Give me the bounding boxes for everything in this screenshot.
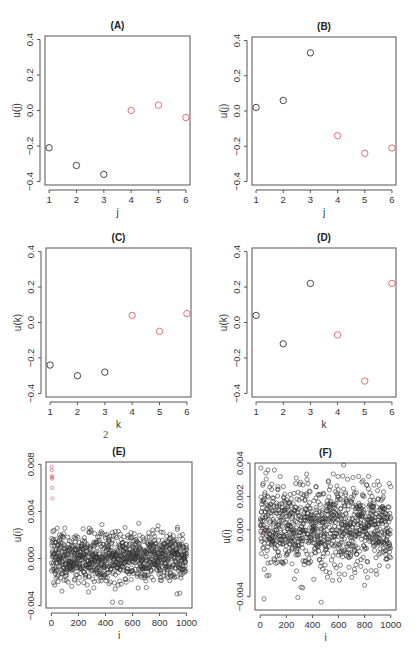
data-point [85, 583, 89, 587]
y-axis-label: u(i) [221, 529, 232, 543]
data-point [325, 575, 329, 579]
x-tick-label: 400 [98, 617, 114, 628]
data-point [331, 472, 335, 476]
x-tick-label: 4 [129, 194, 134, 205]
panel-a: (A)123456j−0.4−0.20.00.20.4u(j) [11, 20, 190, 218]
data-point [290, 562, 294, 566]
x-tick-label: 600 [331, 619, 347, 630]
data-point [288, 492, 292, 496]
y-tick-label: 0.4 [25, 245, 36, 258]
x-axis-label: i [324, 632, 326, 643]
panel-title: (D) [317, 232, 331, 243]
data-point [342, 463, 346, 467]
y-tick-label: −0.2 [25, 349, 36, 368]
data-point [307, 50, 313, 56]
panel-title: (A) [111, 20, 125, 31]
data-point [306, 482, 310, 486]
plot-frame [252, 248, 396, 397]
y-tick-label: 0.000 [25, 547, 36, 571]
x-tick-label: 1000 [176, 617, 197, 628]
data-point [63, 526, 67, 530]
data-point [116, 529, 120, 533]
data-point [388, 555, 392, 559]
data-point [128, 107, 134, 113]
data-point [386, 564, 390, 568]
data-point [345, 477, 349, 481]
data-point [92, 580, 96, 584]
data-point [334, 132, 340, 138]
y-tick-label: 0.000 [234, 518, 245, 542]
series-group-2 [334, 280, 395, 384]
data-point [389, 485, 393, 489]
data-point [47, 362, 53, 368]
data-point [92, 586, 96, 590]
data-point [184, 310, 190, 316]
data-point [347, 565, 351, 569]
x-tick-label: 5 [156, 194, 161, 205]
series-group-1 [253, 280, 314, 347]
data-point [156, 328, 162, 334]
data-point [323, 563, 327, 567]
y-tick-label: 0.0 [24, 104, 35, 117]
y-axis-label: u(k) [218, 314, 229, 331]
data-point [73, 162, 79, 168]
data-point [301, 483, 305, 487]
data-point [292, 491, 296, 495]
x-tick-label: 2 [75, 406, 80, 417]
data-point [70, 584, 74, 588]
data-point [350, 575, 354, 579]
series-group-1 [46, 145, 107, 178]
data-point [122, 535, 126, 539]
data-point [91, 577, 95, 581]
x-tick-label: 6 [183, 194, 188, 205]
y-axis-label: u(k) [12, 314, 23, 331]
data-point [374, 556, 378, 560]
data-point [151, 528, 155, 532]
figure: (A)123456j−0.4−0.20.00.20.4u(j)(B)123456… [0, 0, 420, 649]
x-tick-label: 3 [308, 194, 313, 205]
y-tick-label: −0.4 [231, 172, 242, 191]
y-axis-label: u(i) [12, 528, 23, 542]
x-tick-label: 1 [253, 194, 258, 205]
x-tick-label: 1 [46, 194, 51, 205]
y-tick-label: 0.004 [234, 451, 245, 475]
data-point [262, 567, 266, 571]
y-tick-label: 0.0 [231, 104, 242, 117]
plot-frame [46, 248, 191, 397]
panel-title: (B) [317, 21, 331, 32]
x-tick-label: 4 [335, 406, 340, 417]
y-tick-label: −0.2 [231, 349, 242, 368]
data-point [46, 145, 52, 151]
data-point [334, 332, 340, 338]
data-point [327, 495, 331, 499]
data-point [280, 341, 286, 347]
data-point [370, 494, 374, 498]
data-point [51, 497, 54, 500]
data-point [175, 592, 179, 596]
series-bulk [258, 463, 393, 604]
series-group-1 [47, 362, 108, 379]
stray-label: 2 [103, 428, 109, 440]
data-point [366, 474, 370, 478]
scatter-panels: (A)123456j−0.4−0.20.00.20.4u(j)(B)123456… [0, 0, 420, 649]
data-point [253, 104, 259, 110]
series-group-1 [253, 50, 314, 111]
data-point [156, 524, 160, 528]
x-tick-label: 0 [49, 617, 54, 628]
data-point [328, 571, 332, 575]
data-point [264, 554, 268, 558]
data-point [100, 522, 104, 526]
data-point [307, 280, 313, 286]
data-point [76, 581, 80, 585]
data-point [136, 586, 140, 590]
data-point [278, 474, 282, 478]
y-tick-label: −0.4 [231, 384, 242, 403]
y-tick-label: 0.002 [234, 485, 245, 509]
data-point [329, 558, 333, 562]
x-tick-label: 4 [130, 406, 135, 417]
data-point [377, 552, 381, 556]
data-point [319, 600, 323, 604]
data-point [294, 569, 298, 573]
data-point [155, 528, 159, 532]
y-tick-label: 0.4 [24, 33, 35, 46]
